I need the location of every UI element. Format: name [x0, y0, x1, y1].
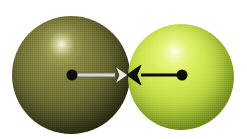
right-sphere[interactable]	[128, 24, 234, 130]
figure-canvas	[0, 0, 247, 139]
right-sphere-texture	[128, 24, 234, 130]
